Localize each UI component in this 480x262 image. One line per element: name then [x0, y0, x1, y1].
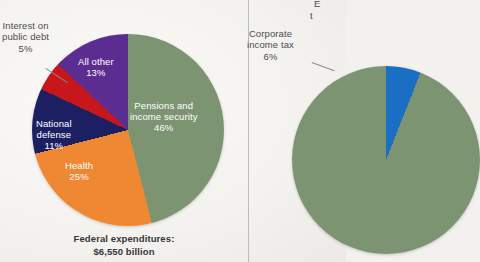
leader-line-corporate [312, 62, 335, 71]
clipped-heading-fragment-1: E [314, 0, 320, 9]
left-chart-caption: Federal expenditures: $6,550 billion [0, 233, 248, 259]
federal-revenue-pie [292, 66, 480, 254]
caption-line2: $6,550 billion [93, 246, 154, 257]
corporate-line2: income tax [247, 39, 294, 50]
interest-line1: Interest on [3, 20, 49, 31]
corporate-line1: Corporate [249, 28, 292, 39]
external-label-interest-on-public-debt: Interest on public debt 5% [2, 20, 49, 54]
clipped-heading-fragment-2: t [310, 10, 313, 21]
left-chart-panel: Pensions and income security 46% Health … [0, 0, 248, 262]
corporate-value: 6% [264, 51, 278, 62]
caption-line1: Federal expenditures: [74, 233, 175, 244]
external-label-corporate-income-tax: Corporate income tax 6% [247, 28, 294, 62]
right-chart-panel: E t Corporate income tax 6% [248, 0, 346, 262]
federal-expenditures-pie [32, 34, 224, 226]
interest-line2: public debt [2, 31, 49, 42]
interest-value: 5% [19, 43, 33, 54]
